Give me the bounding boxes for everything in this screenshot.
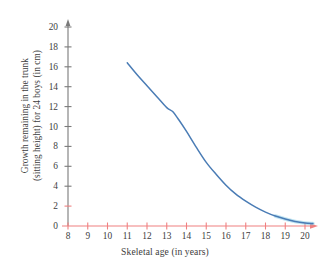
chart-figure: Growth remaining in the trunk (sitting h… <box>0 0 330 271</box>
x-axis <box>62 223 318 230</box>
y-axis-title: Growth remaining in the trunk (sitting h… <box>20 16 43 216</box>
x-axis-title: Skeletal age (in years) <box>0 246 330 257</box>
y-axis <box>65 19 72 226</box>
y-axis-title-line2: (sitting height) for 24 boys (in cm) <box>32 16 44 216</box>
y-axis-title-line1: Growth remaining in the trunk <box>20 16 32 216</box>
series-line-growth-remaining <box>127 63 313 224</box>
y-axis-arrow-icon <box>66 19 71 26</box>
plot-area <box>0 0 330 271</box>
